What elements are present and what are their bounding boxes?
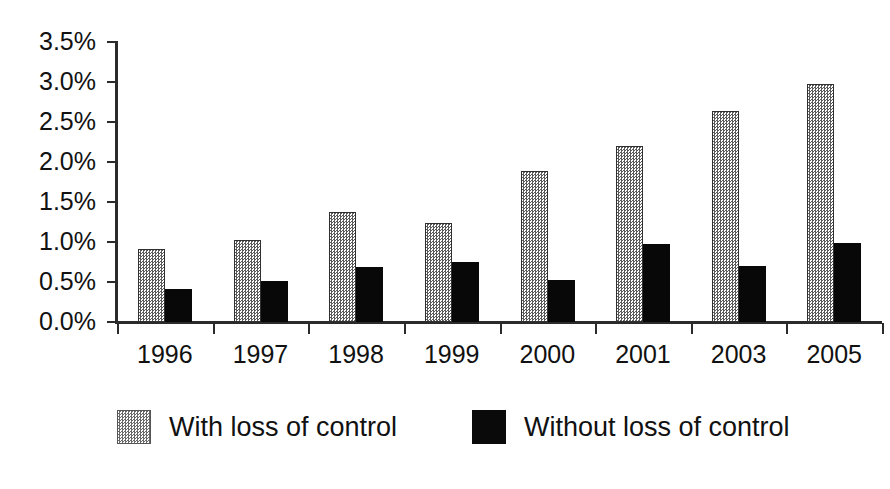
bar-2000-series2 bbox=[548, 280, 575, 322]
y-axis-tick-label: 3.0% bbox=[0, 69, 96, 94]
legend-item-2: Without loss of control bbox=[472, 405, 790, 449]
bar-1998-series2 bbox=[356, 267, 383, 322]
y-axis-tick-label: 0.0% bbox=[0, 309, 96, 334]
x-axis-category-label: 2000 bbox=[500, 340, 596, 368]
x-axis-tick bbox=[308, 323, 310, 334]
chart-legend: With loss of controlWithout loss of cont… bbox=[117, 405, 817, 455]
y-axis-tick-label: 2.5% bbox=[0, 109, 96, 134]
y-axis-tick-label: 1.5% bbox=[0, 189, 96, 214]
x-axis-tick bbox=[691, 323, 693, 334]
bar-1999-series1 bbox=[425, 223, 452, 322]
legend-item-1: With loss of control bbox=[117, 405, 397, 449]
bar-2001-series2 bbox=[643, 244, 670, 322]
bar-2003-series1 bbox=[712, 111, 739, 322]
bar-1996-series1 bbox=[138, 249, 165, 322]
x-axis-tick bbox=[500, 323, 502, 334]
y-axis-tick bbox=[107, 41, 116, 43]
x-axis-category-label: 2005 bbox=[786, 340, 882, 368]
x-axis-tick bbox=[786, 323, 788, 334]
x-axis-tick bbox=[117, 323, 119, 334]
x-axis-category-label: 1997 bbox=[213, 340, 309, 368]
bar-1996-series2 bbox=[165, 289, 192, 322]
bar-chart-figure: 0.0%0.5%1.0%1.5%2.0%2.5%3.0%3.5% 1996199… bbox=[0, 0, 890, 489]
bar-1999-series2 bbox=[452, 262, 479, 322]
y-axis-tick-label: 1.0% bbox=[0, 229, 96, 254]
bar-1997-series1 bbox=[234, 240, 261, 322]
x-axis-category-label: 2001 bbox=[595, 340, 691, 368]
bar-1998-series1 bbox=[329, 212, 356, 322]
legend-label-2: Without loss of control bbox=[524, 412, 790, 442]
legend-label-1: With loss of control bbox=[169, 412, 397, 442]
y-axis-tick bbox=[107, 161, 116, 163]
x-axis-tick bbox=[213, 323, 215, 334]
legend-swatch-1 bbox=[117, 410, 151, 444]
y-axis-tick bbox=[107, 321, 116, 323]
y-axis-tick bbox=[107, 241, 116, 243]
x-axis-category-label: 1996 bbox=[117, 340, 213, 368]
y-axis-tick bbox=[107, 81, 116, 83]
x-axis-category-label: 1998 bbox=[308, 340, 404, 368]
y-axis-tick bbox=[107, 121, 116, 123]
bar-2005-series1 bbox=[807, 84, 834, 322]
legend-swatch-2 bbox=[472, 410, 506, 444]
y-axis-tick-label: 2.0% bbox=[0, 149, 96, 174]
x-axis-tick bbox=[595, 323, 597, 334]
bar-2005-series2 bbox=[834, 243, 861, 322]
bar-2000-series1 bbox=[521, 171, 548, 322]
plot-area bbox=[117, 42, 882, 322]
y-axis-tick-label: 0.5% bbox=[0, 269, 96, 294]
x-axis-category-label: 1999 bbox=[404, 340, 500, 368]
x-axis-tick bbox=[404, 323, 406, 334]
x-axis-tick bbox=[882, 323, 884, 334]
bar-2003-series2 bbox=[739, 266, 766, 322]
bar-2001-series1 bbox=[616, 146, 643, 322]
x-axis-category-label: 2003 bbox=[691, 340, 787, 368]
y-axis-tick-label: 3.5% bbox=[0, 29, 96, 54]
bar-1997-series2 bbox=[261, 281, 288, 322]
y-axis-tick bbox=[107, 281, 116, 283]
y-axis-tick bbox=[107, 201, 116, 203]
